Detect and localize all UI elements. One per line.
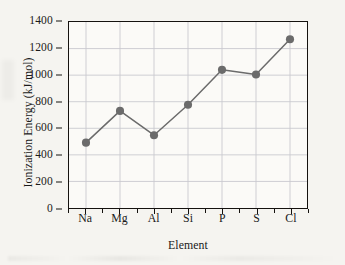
y-axis-title: Ionization Energy (kJ/mol) xyxy=(21,25,36,221)
plot-area xyxy=(68,21,308,209)
x-tick-label-P: P xyxy=(219,213,226,225)
y-tick-mark xyxy=(56,209,62,210)
x-tick-label-Cl: Cl xyxy=(285,213,296,225)
y-tick-mark xyxy=(56,155,62,156)
data-point-Al xyxy=(150,131,158,139)
y-tick-mark xyxy=(56,182,62,183)
y-tick-mark xyxy=(56,128,62,129)
data-point-P xyxy=(218,66,226,74)
y-tick-mark xyxy=(56,47,62,48)
data-point-Na xyxy=(82,139,90,147)
y-tick-label: 400 xyxy=(35,150,53,162)
y-tick-mark xyxy=(56,21,62,22)
x-tick-label-S: S xyxy=(253,213,260,225)
y-tick-label: 800 xyxy=(35,96,53,108)
y-tick-mark xyxy=(56,74,62,75)
data-series xyxy=(69,22,307,208)
y-tick-label: 600 xyxy=(35,123,53,135)
series-line xyxy=(86,39,290,142)
x-axis-title: Element xyxy=(68,238,308,253)
x-tick-label-Mg: Mg xyxy=(111,213,127,225)
data-point-Si xyxy=(184,101,192,109)
x-axis-tick-labels: NaMgAlSiPSCl xyxy=(68,213,308,231)
data-point-S xyxy=(252,70,260,78)
y-tick-label: 0 xyxy=(47,203,53,215)
y-tick-label: 200 xyxy=(35,176,53,188)
x-tick-label-Si: Si xyxy=(183,213,193,225)
ionization-energy-chart: 0200400600800100012001400 Ionization Ene… xyxy=(0,0,345,265)
x-tick-label-Na: Na xyxy=(78,213,92,225)
y-tick-mark xyxy=(56,101,62,102)
data-point-Mg xyxy=(116,107,124,115)
x-tick-label-Al: Al xyxy=(148,213,160,225)
data-point-Cl xyxy=(286,35,294,43)
x-minor-tick-mark xyxy=(308,209,309,213)
scan-artifact-bottom xyxy=(8,256,338,261)
